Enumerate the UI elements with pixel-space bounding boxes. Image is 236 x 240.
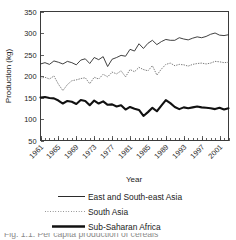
x-tick-label: 2001 [206, 143, 224, 161]
y-tick-label: 50 [28, 137, 36, 146]
x-tick-label: 1981 [116, 143, 134, 161]
series-line-south-asia [41, 61, 229, 90]
x-tick-label: 1969 [62, 143, 80, 161]
x-tick-label: 1973 [80, 143, 98, 161]
y-tick-label: 250 [24, 51, 36, 60]
x-tick-label: 1985 [134, 143, 152, 161]
production-line-chart: 35030025020015010050 1961196519691973197… [0, 0, 236, 240]
x-tick-label: 1997 [188, 143, 206, 161]
series-line-east-and-south-east-asia [41, 33, 229, 67]
legend-label-south-asia: South Asia [88, 207, 128, 217]
series-line-sub-saharan-africa [41, 97, 229, 116]
figure-caption-clipped: Fig. 1.1. Per capita production of cerea… [0, 233, 236, 240]
x-tick-label: 1977 [98, 143, 116, 161]
legend-label-sub-saharan-africa: Sub-Saharan Africa [88, 222, 161, 232]
x-axis-label: Year [126, 175, 143, 184]
x-tick-label: 1965 [44, 143, 62, 161]
y-axis-label: Production (kg) [4, 49, 13, 104]
figure-container: 35030025020015010050 1961196519691973197… [0, 0, 236, 240]
plot-frame [41, 12, 229, 141]
x-axis-tick-labels: 1961196519691973197719811985198919931997… [27, 143, 224, 161]
y-tick-label: 350 [24, 8, 36, 17]
y-tick-label: 150 [24, 94, 36, 103]
figure-caption-text: Fig. 1.1. Per capita production of cerea… [4, 233, 158, 239]
y-axis-tick-labels: 35030025020015010050 [24, 8, 36, 146]
x-tick-label: 1993 [170, 143, 188, 161]
chart-legend: East and South-east Asia South Asia Sub-… [45, 192, 182, 232]
y-tick-label: 100 [24, 115, 36, 124]
y-tick-label: 300 [24, 29, 36, 38]
y-tick-label: 200 [24, 72, 36, 81]
x-tick-label: 1989 [152, 143, 170, 161]
legend-label-east-and-south-east-asia: East and South-east Asia [88, 192, 182, 202]
